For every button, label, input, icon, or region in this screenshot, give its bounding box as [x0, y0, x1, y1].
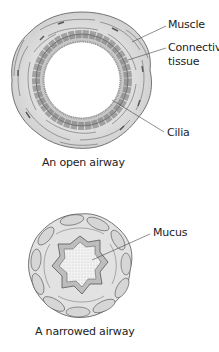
caption-open-airway: An open airway — [42, 156, 125, 169]
label-connective-tissue-line1: Connective — [168, 41, 219, 54]
open-airway-cross-section — [12, 12, 166, 148]
caption-narrowed-airway: A narrowed airway — [35, 325, 134, 338]
label-mucus: Mucus — [153, 226, 187, 239]
label-muscle: Muscle — [168, 18, 205, 31]
narrowed-airway-cross-section — [29, 213, 150, 317]
label-cilia: Cilia — [167, 126, 190, 139]
label-connective-tissue-line2: tissue — [168, 55, 199, 68]
